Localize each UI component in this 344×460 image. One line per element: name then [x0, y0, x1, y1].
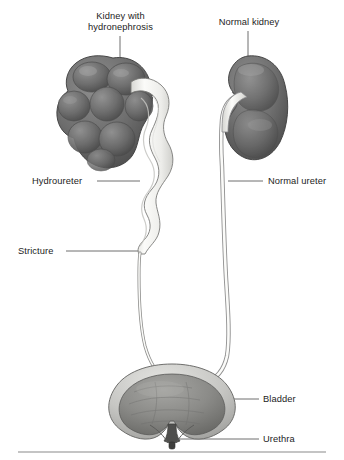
hydronephrosis-diagram: Kidney with hydronephrosis Normal kidney… [0, 0, 344, 460]
label-kidney-hydronephrosis-line1: Kidney with [63, 11, 178, 22]
stricture-and-distal-ureter [139, 253, 167, 380]
label-kidney-hydronephrosis-line2: hydronephrosis [63, 22, 178, 33]
label-urethra: Urethra [263, 434, 295, 445]
label-normal-kidney: Normal kidney [196, 17, 302, 28]
label-bladder: Bladder [263, 394, 296, 405]
label-normal-ureter: Normal ureter [268, 176, 326, 187]
label-kidney-hydronephrosis: Kidney with hydronephrosis [63, 11, 178, 34]
bladder-shape [109, 364, 236, 444]
kidney-hydronephrosis-shape [57, 56, 153, 171]
label-stricture: Stricture [18, 246, 54, 257]
urethra-shape [169, 442, 175, 449]
label-hydroureter: Hydroureter [32, 176, 82, 187]
anatomy-illustration [0, 0, 344, 460]
